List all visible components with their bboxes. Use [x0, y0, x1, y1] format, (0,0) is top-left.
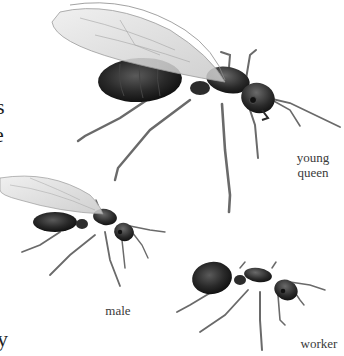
- worker-label: worker: [296, 336, 342, 351]
- label-line: queen: [288, 165, 338, 180]
- label-line: young: [288, 150, 338, 165]
- worker-body: [190, 259, 302, 304]
- male-label: male: [98, 303, 138, 318]
- young-queen-label: young queen: [288, 150, 338, 180]
- male-wings: [0, 176, 103, 214]
